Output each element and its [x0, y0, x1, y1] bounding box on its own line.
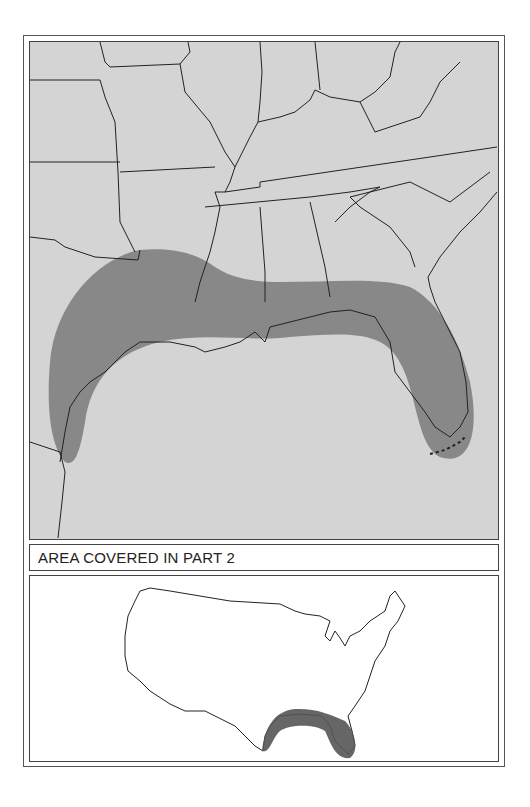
- regional-map: [29, 41, 499, 540]
- us-outline: [125, 588, 405, 754]
- inset-map-svg: [30, 576, 497, 760]
- caption-box: AREA COVERED IN PART 2: [29, 544, 499, 571]
- caption-text: AREA COVERED IN PART 2: [38, 549, 235, 566]
- figure-frame: AREA COVERED IN PART 2: [23, 35, 505, 767]
- regional-map-svg: [30, 42, 497, 538]
- highlight-region: [49, 249, 474, 463]
- inset-map: [29, 575, 499, 762]
- inset-highlight: [262, 709, 355, 758]
